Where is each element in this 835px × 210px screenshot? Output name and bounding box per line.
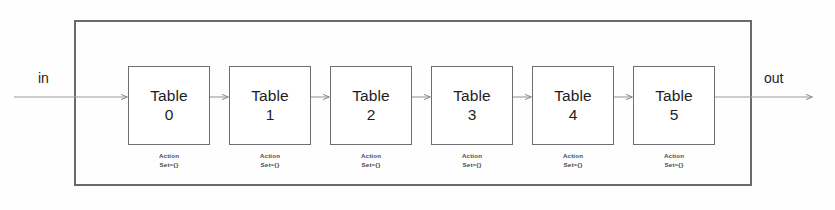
action-set-label-1: Action Set={} [229, 152, 311, 170]
table-stage-5-title: Table [655, 87, 693, 105]
action-set-label-2-line1: Action [330, 152, 412, 161]
table-stage-3-title: Table [453, 87, 491, 105]
table-stage-5[interactable]: Table 5 [633, 66, 715, 145]
table-stage-2-title: Table [352, 87, 390, 105]
table-stage-5-number: 5 [670, 106, 679, 124]
table-stage-0-title: Table [150, 87, 188, 105]
action-set-label-1-line1: Action [229, 152, 311, 161]
action-set-label-0-line1: Action [128, 152, 210, 161]
action-set-label-2-line2: Set={} [330, 161, 412, 170]
action-set-label-1-line2: Set={} [229, 161, 311, 170]
action-set-label-5-line1: Action [633, 152, 715, 161]
output-label: out [764, 70, 783, 86]
action-set-label-4-line1: Action [532, 152, 614, 161]
action-set-label-5-line2: Set={} [633, 161, 715, 170]
action-set-label-3-line1: Action [431, 152, 513, 161]
pipeline-diagram: in out Table 0 Action Set={} Table 1 Act… [0, 0, 835, 210]
table-stage-1-title: Table [251, 87, 289, 105]
action-set-label-3: Action Set={} [431, 152, 513, 170]
action-set-label-0: Action Set={} [128, 152, 210, 170]
action-set-label-4-line2: Set={} [532, 161, 614, 170]
action-set-label-2: Action Set={} [330, 152, 412, 170]
table-stage-2[interactable]: Table 2 [330, 66, 412, 145]
table-stage-4[interactable]: Table 4 [532, 66, 614, 145]
table-stage-0-number: 0 [165, 106, 174, 124]
table-stage-4-number: 4 [569, 106, 578, 124]
action-set-label-3-line2: Set={} [431, 161, 513, 170]
action-set-label-0-line2: Set={} [128, 161, 210, 170]
table-stage-2-number: 2 [367, 106, 376, 124]
table-stage-0[interactable]: Table 0 [128, 66, 210, 145]
action-set-label-4: Action Set={} [532, 152, 614, 170]
input-label: in [38, 70, 49, 86]
table-stage-3[interactable]: Table 3 [431, 66, 513, 145]
table-stage-4-title: Table [554, 87, 592, 105]
action-set-label-5: Action Set={} [633, 152, 715, 170]
table-stage-1-number: 1 [266, 106, 275, 124]
table-stage-1[interactable]: Table 1 [229, 66, 311, 145]
table-stage-3-number: 3 [468, 106, 477, 124]
